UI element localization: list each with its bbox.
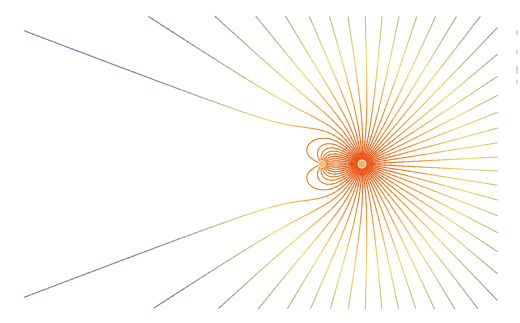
- field-line-segment: [330, 19, 332, 25]
- field-line-segment: [420, 133, 425, 136]
- field-line-segment: [241, 215, 247, 217]
- field-line-segment: [350, 113, 352, 119]
- field-line-segment: [412, 195, 417, 198]
- field-line-segment: [434, 235, 438, 239]
- field-line-segment: [423, 237, 427, 242]
- field-line-segment: [396, 110, 399, 115]
- field-line-segment: [415, 190, 420, 193]
- field-line-segment: [391, 168, 397, 169]
- field-line-segment: [350, 28, 351, 34]
- field-line-segment: [437, 113, 442, 116]
- field-line-segment: [490, 213, 496, 215]
- field-line-segment: [313, 299, 315, 305]
- field-line-segment: [378, 264, 379, 270]
- field-line-segment: [484, 287, 488, 291]
- field-line-segment: [162, 243, 168, 245]
- field-line-segment: [438, 176, 444, 177]
- field-line-segment: [320, 282, 322, 288]
- field-line-segment: [389, 93, 391, 99]
- field-line-segment: [270, 120, 276, 122]
- field-line-segment: [128, 70, 134, 72]
- field-line-segment: [432, 208, 437, 211]
- field-line-segment: [470, 299, 474, 304]
- field-line-segment: [390, 267, 391, 273]
- field-line-segment: [402, 136, 407, 139]
- field-line-segment: [281, 203, 287, 204]
- field-line-segment: [454, 188, 460, 190]
- field-line-segment: [437, 223, 442, 227]
- field-line-segment: [349, 125, 352, 131]
- field-line-segment: [340, 170, 346, 172]
- field-line-segment: [50, 286, 56, 288]
- field-line-segment: [345, 190, 349, 195]
- field-line-segment: [374, 94, 375, 100]
- field-line-segment: [156, 245, 162, 247]
- field-line-segment: [443, 289, 446, 294]
- field-line-segment: [385, 143, 390, 147]
- field-line-segment: [427, 120, 432, 123]
- field-line-segment: [459, 285, 463, 290]
- field-line-segment: [207, 99, 213, 101]
- field-line-segment: [156, 81, 162, 83]
- field-line-segment: [384, 154, 390, 156]
- field-line-segment: [260, 57, 265, 61]
- field-line-segment: [285, 272, 289, 277]
- field-line-segment: [379, 221, 380, 227]
- field-line-segment: [327, 200, 332, 203]
- field-line-segment: [305, 127, 311, 128]
- field-line-segment: [247, 113, 253, 115]
- field-line-segment: [351, 34, 352, 40]
- field-line-segment: [83, 53, 89, 55]
- field-line-segment: [254, 84, 259, 87]
- field-line-segment: [385, 190, 389, 195]
- field-line-segment: [328, 193, 333, 196]
- field-line-segment: [389, 195, 393, 200]
- field-line-segment: [320, 73, 323, 78]
- field-line-segment: [385, 182, 390, 186]
- field-line-segment: [463, 215, 468, 218]
- field-line-segment: [307, 151, 309, 156]
- field-line-segment: [430, 54, 433, 59]
- field-line-segment: [306, 212, 311, 215]
- field-line-segment: [413, 177, 419, 179]
- field-line-segment: [337, 125, 341, 129]
- field-line-segment: [425, 180, 431, 182]
- field-line-segment: [381, 23, 382, 29]
- field-line-segment: [173, 293, 178, 296]
- field-line-segment: [304, 248, 308, 253]
- field-line-segment: [310, 101, 315, 105]
- field-line-segment: [484, 226, 489, 229]
- field-line-segment: [388, 112, 391, 117]
- field-line-segment: [358, 199, 359, 205]
- field-line-segment: [357, 187, 358, 193]
- field-line-segment: [345, 162, 351, 163]
- field-line-segment: [404, 185, 409, 188]
- field-line-segment: [283, 247, 288, 251]
- field-line-segment: [377, 189, 380, 194]
- field-line-segment: [406, 75, 409, 80]
- field-line-segment: [393, 102, 396, 107]
- field-line-segment: [376, 126, 378, 132]
- field-line-segment: [445, 58, 449, 63]
- field-line-segment: [409, 200, 414, 204]
- field-line-segment: [360, 105, 361, 111]
- field-line-segment: [373, 222, 374, 228]
- field-line-segment: [149, 17, 153, 20]
- field-line-segment: [473, 206, 479, 208]
- field-line-segment: [312, 116, 317, 119]
- field-line-segment: [288, 307, 289, 309]
- field-line-segment: [419, 91, 423, 96]
- field-line-segment: [452, 48, 456, 53]
- field-line-segment: [318, 146, 322, 151]
- field-line-segment: [312, 209, 317, 212]
- field-line-segment: [437, 67, 441, 72]
- field-line-segment: [474, 105, 479, 108]
- field-line-segment: [383, 84, 384, 90]
- field-line-segment: [392, 143, 397, 146]
- field-line-segment: [266, 29, 270, 34]
- field-line-segment: [437, 143, 443, 145]
- field-line-segment: [338, 104, 341, 109]
- field-line-segment: [385, 160, 391, 161]
- field-line-segment: [399, 143, 404, 146]
- field-line-segment: [383, 213, 385, 219]
